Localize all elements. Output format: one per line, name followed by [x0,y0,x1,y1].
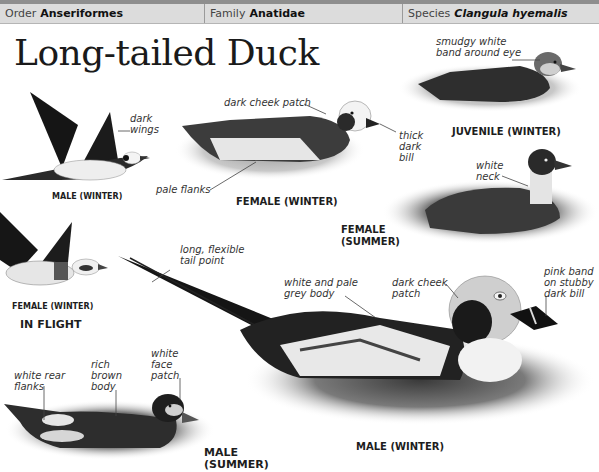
annotation-line: face [151,359,179,370]
annotation-line: dark [399,141,423,152]
annotation-line: white and pale [284,277,358,288]
annotation-line: body [91,381,122,392]
annotation-line: long, flexible [180,244,245,255]
annotation-line: smudgy white [436,36,521,47]
caption-male-winter-flight: MALE (WINTER) [52,191,122,203]
taxonomy-family: Family Anatidae [205,4,403,23]
order-label: Order [5,7,36,20]
annotation-pink-band-bill: pink band on stubby dark bill [544,266,594,299]
family-value: Anatidae [249,7,305,20]
taxonomy-bar: Order Anseriformes Family Anatidae Speci… [0,0,599,24]
caption-line: (SUMMER) [341,236,400,248]
annotation-line: brown [91,370,122,381]
caption-in-flight: IN FLIGHT [20,319,81,331]
annotation-line: wings [130,124,159,135]
caption-female-winter: FEMALE (WINTER) [236,196,338,208]
annotation-long-flexible-tail: long, flexible tail point [180,244,245,266]
annotation-line: thick [399,130,423,141]
annotation-line: pale flanks [156,184,211,195]
caption-line: FEMALE [341,224,400,236]
annotation-line: tail point [180,255,245,266]
annotation-white-face-patch: white face patch [151,348,179,381]
taxonomy-order: Order Anseriformes [0,4,205,23]
caption-female-summer: FEMALE (SUMMER) [341,224,400,248]
page-title: Long-tailed Duck [14,32,319,73]
annotation-rich-brown-body: rich brown body [91,359,122,392]
annotation-line: flanks [14,381,65,392]
annotation-dark-wings: dark wings [130,113,159,135]
annotation-line: white [476,160,503,171]
family-label: Family [210,7,245,20]
annotation-line: white [151,348,179,359]
annotation-line: pink band [544,266,594,277]
female-winter-illustration [175,101,380,180]
caption-male-summer: MALE (SUMMER) [204,447,269,471]
annotation-line: dark cheek patch [224,97,311,108]
caption-female-winter-flight: FEMALE (WINTER) [12,301,93,313]
annotation-line: grey body [284,288,358,299]
female-winter-flight-illustration [0,212,108,285]
annotation-line: band around eye [436,47,521,58]
annotation-white-rear-flanks: white rear flanks [14,370,65,392]
annotation-white-neck: white neck [476,160,503,182]
annotation-line: dark bill [544,288,594,299]
annotation-line: bill [399,152,423,163]
annotation-line: dark cheek [392,277,448,288]
annotation-smudgy-white-band: smudgy white band around eye [436,36,521,58]
annotation-pale-flanks: pale flanks [156,184,211,195]
annotation-line: dark [130,113,159,124]
annotation-line: rich [91,359,122,370]
annotation-dark-cheek-patch-female: dark cheek patch [224,97,311,108]
annotation-line: white rear [14,370,65,381]
species-value: Clangula hyemalis [454,7,567,20]
order-value: Anseriformes [40,7,123,20]
male-winter-flight-illustration [2,92,150,180]
annotation-line: neck [476,171,503,182]
annotation-line: patch [392,288,448,299]
male-summer-illustration [4,394,215,460]
caption-line: (SUMMER) [204,459,269,471]
juvenile-winter-illustration [398,52,582,112]
annotation-line: patch [151,370,179,381]
annotation-white-pale-grey-body: white and pale grey body [284,277,358,299]
caption-juvenile-winter: JUVENILE (WINTER) [452,126,561,138]
taxonomy-species: Species Clangula hyemalis [403,4,599,23]
species-label: Species [408,7,450,20]
annotation-dark-cheek-patch-male: dark cheek patch [392,277,448,299]
annotation-line: on stubby [544,277,594,288]
caption-male-winter: MALE (WINTER) [356,441,444,453]
annotation-thick-dark-bill: thick dark bill [399,130,423,163]
